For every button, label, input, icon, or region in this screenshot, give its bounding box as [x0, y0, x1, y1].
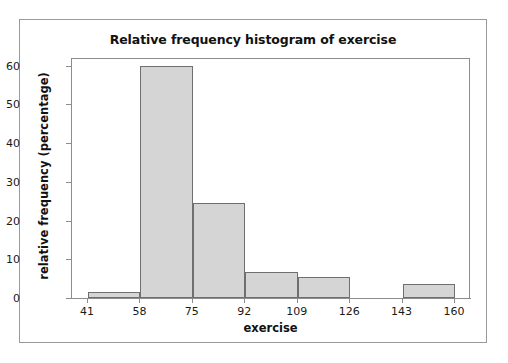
y-axis-tick-label: 0: [13, 292, 20, 305]
histogram-bar: [245, 272, 297, 298]
plot-area: [72, 59, 469, 298]
y-axis-tick: [66, 298, 71, 299]
histogram-bar: [403, 284, 455, 298]
x-axis-line: [71, 298, 471, 299]
y-axis-tick-label: 30: [6, 175, 20, 188]
x-axis-tick-label: 143: [391, 305, 412, 318]
y-axis-tick: [66, 259, 71, 260]
x-axis-title: exercise: [71, 321, 470, 335]
y-axis-tick: [66, 221, 71, 222]
histogram-bar: [140, 66, 192, 298]
y-axis-tick: [66, 182, 71, 183]
x-axis-tick-label: 160: [444, 305, 465, 318]
y-axis-tick-label: 60: [6, 59, 20, 72]
y-axis-tick: [66, 66, 71, 67]
y-axis-tick-label: 40: [6, 137, 20, 150]
x-axis-tick-label: 58: [132, 305, 146, 318]
x-axis-tick-label: 41: [80, 305, 94, 318]
histogram-bar: [193, 203, 245, 298]
x-axis-tick: [349, 298, 350, 303]
y-axis-tick: [66, 143, 71, 144]
x-axis-tick-label: 109: [286, 305, 307, 318]
plot-frame: [71, 58, 470, 298]
x-axis-tick-label: 92: [237, 305, 251, 318]
x-axis-tick: [244, 298, 245, 303]
histogram-figure: Relative frequency histogram of exercise…: [19, 19, 487, 343]
x-axis-tick: [139, 298, 140, 303]
x-axis-tick-label: 75: [185, 305, 199, 318]
chart-title: Relative frequency histogram of exercise: [20, 32, 486, 47]
x-axis-tick: [297, 298, 298, 303]
y-axis-tick-label: 10: [6, 253, 20, 266]
histogram-bar: [298, 277, 350, 298]
x-axis-tick: [192, 298, 193, 303]
y-axis-tick-label: 20: [6, 214, 20, 227]
y-axis-tick-label: 50: [6, 98, 20, 111]
x-axis-tick: [87, 298, 88, 303]
y-axis-title: relative frequency (percentage): [37, 66, 51, 286]
x-axis-tick: [402, 298, 403, 303]
x-axis-tick-label: 126: [339, 305, 360, 318]
y-axis-tick: [66, 104, 71, 105]
x-axis-tick: [454, 298, 455, 303]
